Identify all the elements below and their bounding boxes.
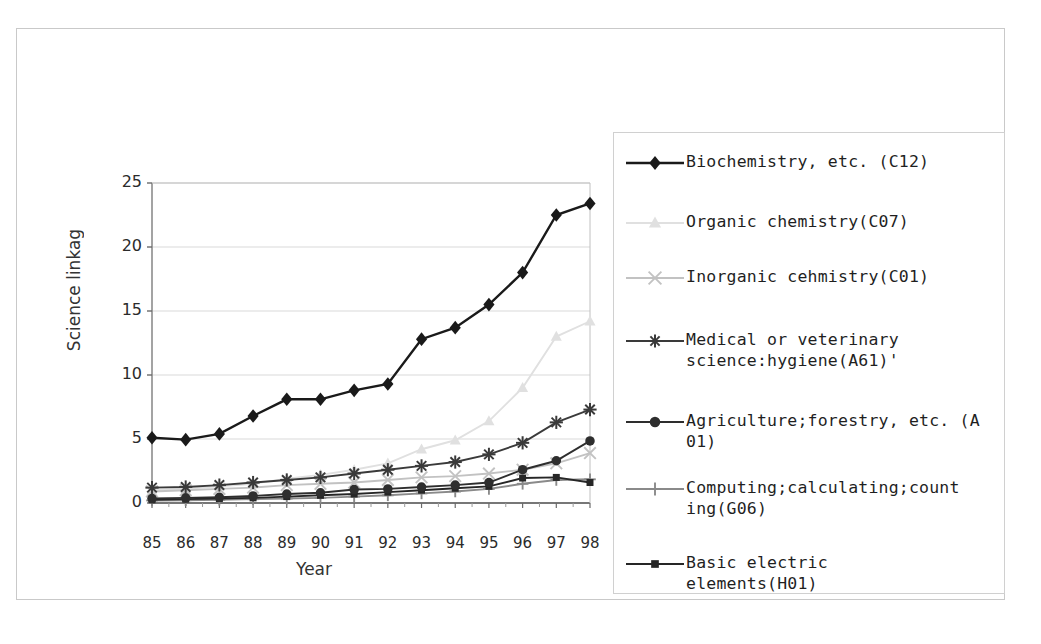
legend-item[interactable]: Inorganic cehmistry(C01): [624, 266, 1002, 289]
legend-label: Inorganic cehmistry(C01): [686, 266, 929, 287]
legend-item[interactable]: Organic chemistry(C07): [624, 211, 1002, 234]
x-tick-label: 94: [440, 534, 470, 552]
diamond-marker-icon: [624, 152, 686, 174]
square-marker-icon: [624, 553, 686, 575]
x-tick-label: 86: [171, 534, 201, 552]
x-marker-icon: [624, 267, 686, 289]
y-tick-label: 10: [108, 364, 142, 383]
scan-artifact: ⁄: [355, 2, 555, 14]
legend-item[interactable]: Medical or veterinary science:hygiene(A6…: [624, 329, 1002, 371]
legend-label: Agriculture;forestry, etc. (A 01): [686, 410, 980, 452]
legend-label: Biochemistry, etc. (C12): [686, 151, 929, 172]
x-tick-label: 97: [541, 534, 571, 552]
x-axis-label: Year: [296, 559, 332, 579]
y-tick-label: 0: [108, 492, 142, 511]
legend-label: Organic chemistry(C07): [686, 211, 909, 232]
x-tick-label: 98: [575, 534, 605, 552]
y-tick-label: 25: [108, 172, 142, 191]
series-diamond: [146, 197, 595, 447]
legend-item[interactable]: Agriculture;forestry, etc. (A 01): [624, 410, 1002, 452]
legend-label: Medical or veterinary science:hygiene(A6…: [686, 329, 899, 371]
x-tick-label: 91: [339, 534, 369, 552]
x-tick-label: 87: [204, 534, 234, 552]
y-axis-label: Science linkag: [64, 195, 88, 385]
y-tick-label: 5: [108, 428, 142, 447]
legend-item[interactable]: Basic electric elements(H01): [624, 552, 1002, 594]
x-tick-label: 88: [238, 534, 268, 552]
x-tick-label: 92: [373, 534, 403, 552]
line-chart-plot: [16, 28, 613, 600]
asterisk-marker-icon: [624, 330, 686, 352]
legend-label: Basic electric elements(H01): [686, 552, 828, 594]
x-tick-label: 93: [407, 534, 437, 552]
chart-area: Science linkag Year 0510152025 858687888…: [16, 28, 613, 600]
legend-label: Computing;calculating;count ing(G06): [686, 477, 960, 519]
legend-item[interactable]: Biochemistry, etc. (C12): [624, 151, 1002, 174]
triangle-marker-icon: [624, 212, 686, 234]
x-tick-label: 90: [305, 534, 335, 552]
chart-legend: Biochemistry, etc. (C12)Organic chemistr…: [613, 132, 1005, 594]
y-tick-label: 20: [108, 236, 142, 255]
x-tick-label: 89: [272, 534, 302, 552]
x-tick-label: 96: [508, 534, 538, 552]
plus-marker-icon: [624, 478, 686, 500]
x-tick-label: 85: [137, 534, 167, 552]
y-tick-label: 15: [108, 300, 142, 319]
legend-item[interactable]: Computing;calculating;count ing(G06): [624, 477, 1002, 519]
x-tick-label: 95: [474, 534, 504, 552]
circle-marker-icon: [624, 411, 686, 433]
